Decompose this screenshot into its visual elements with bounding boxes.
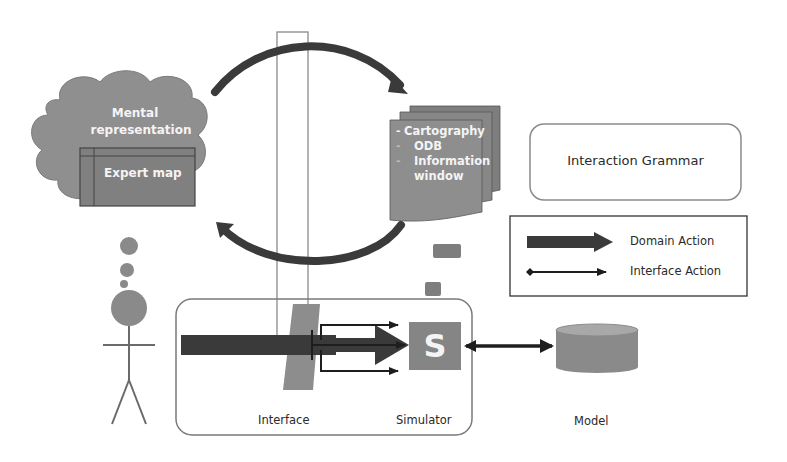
interface-strip xyxy=(277,32,308,342)
interface-label: Interface xyxy=(258,413,310,427)
thought-bubble-1 xyxy=(120,237,138,255)
legend-domain-action-label: Domain Action xyxy=(630,234,714,248)
simulator-glyph: S xyxy=(409,323,461,369)
simulator-label: Simulator xyxy=(396,413,452,427)
person-head xyxy=(111,290,147,326)
diagram-canvas: Mental representation Expert map - Carto… xyxy=(0,0,787,462)
diagram-graphics xyxy=(0,0,787,462)
expert-map-label: Expert map xyxy=(104,166,182,180)
bottom-curved-arrow xyxy=(222,225,401,261)
thought-bubble-2 xyxy=(120,263,134,277)
cloud-title-line2: representation xyxy=(76,123,206,137)
legend-interface-action-label: Interface Action xyxy=(630,264,721,278)
model-label: Model xyxy=(574,414,609,428)
small-block-2 xyxy=(425,282,441,296)
thought-bubble-3 xyxy=(120,280,128,288)
small-block-1 xyxy=(433,244,461,258)
model-cylinder xyxy=(556,324,638,373)
stick-figure xyxy=(103,326,155,424)
legend-box xyxy=(510,216,747,296)
interaction-grammar-label: Interaction Grammar xyxy=(530,153,741,168)
cloud-title-line1: Mental xyxy=(100,106,170,120)
